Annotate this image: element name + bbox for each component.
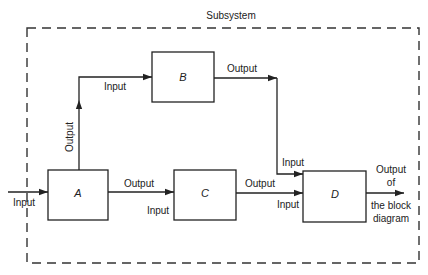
label-final-output-1: Output: [376, 164, 406, 175]
label-system-input: Input: [13, 197, 35, 208]
block-diagram: Subsystem B A C D Input Output Input Out…: [0, 0, 428, 275]
label-c-input: Input: [147, 205, 169, 216]
block-a-label: A: [73, 187, 81, 199]
block-d-label: D: [331, 188, 339, 200]
label-c-output: Output: [245, 178, 275, 189]
label-d-input-top: Input: [282, 157, 304, 168]
label-final-output-3: the block: [371, 200, 412, 211]
label-final-output-2: of: [387, 177, 396, 188]
subsystem-title: Subsystem: [206, 10, 255, 21]
label-b-input: Input: [104, 81, 126, 92]
label-final-output-4: diagram: [373, 213, 409, 224]
block-b-label: B: [179, 71, 186, 83]
block-a: A: [48, 170, 108, 220]
block-c: C: [174, 170, 236, 220]
block-c-label: C: [201, 187, 209, 199]
block-d: D: [303, 171, 366, 222]
label-a-output-up: Output: [64, 122, 75, 152]
block-b: B: [152, 52, 214, 102]
label-a-output-right: Output: [124, 178, 154, 189]
label-d-input-bottom: Input: [277, 199, 299, 210]
label-b-output: Output: [227, 63, 257, 74]
subsystem-boundary: [27, 28, 419, 263]
